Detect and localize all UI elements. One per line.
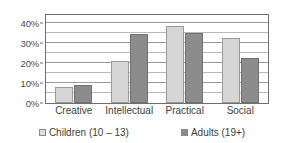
y-tick-label-20: 20% xyxy=(21,58,39,69)
y-tick-mark-20 xyxy=(40,63,43,64)
y-tick-mark-10 xyxy=(40,83,43,84)
chart-legend: Children (10 – 13) Adults (19+) xyxy=(0,124,284,140)
bar-group-practical xyxy=(166,15,203,103)
bar-social-adults xyxy=(241,58,259,103)
legend-entry-children: Children (10 – 13) xyxy=(39,127,129,138)
y-axis: 40% 30% 20% 10% 0% xyxy=(0,14,43,104)
bar-group-creative xyxy=(55,15,92,103)
y-tick-mark-30 xyxy=(40,43,43,44)
bars-layer xyxy=(46,15,268,103)
bar-creative-children xyxy=(55,87,73,103)
legend-swatch-adults-icon xyxy=(181,129,188,136)
x-axis-labels: Creative Intellectual Practical Social xyxy=(46,105,268,119)
y-tick-label-10: 10% xyxy=(21,78,39,89)
y-tick-label-40: 40% xyxy=(21,18,39,29)
bar-chart-figure: 40% 30% 20% 10% 0% xyxy=(0,0,284,143)
bar-creative-adults xyxy=(74,85,92,103)
y-tick-mark-0 xyxy=(40,103,43,104)
bar-social-children xyxy=(222,38,240,103)
bar-practical-adults xyxy=(185,33,203,103)
legend-entry-adults: Adults (19+) xyxy=(181,127,245,138)
bar-intellectual-children xyxy=(111,61,129,103)
legend-swatch-children-icon xyxy=(39,129,46,136)
bar-group-social xyxy=(222,15,259,103)
y-tick-label-30: 30% xyxy=(21,38,39,49)
x-label-social: Social xyxy=(200,105,280,116)
bar-intellectual-adults xyxy=(130,34,148,103)
legend-label-children: Children (10 – 13) xyxy=(49,127,129,138)
y-tick-mark-40 xyxy=(40,23,43,24)
legend-label-adults: Adults (19+) xyxy=(191,127,245,138)
bar-practical-children xyxy=(166,26,184,103)
bar-group-intellectual xyxy=(111,15,148,103)
